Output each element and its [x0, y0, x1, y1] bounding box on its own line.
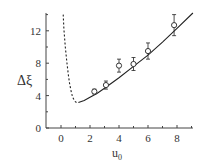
open-circle-marker [103, 82, 108, 87]
y-tick-label: 12 [30, 25, 41, 37]
y-tick-label: 4 [36, 90, 42, 102]
x-tick-label: 4 [116, 132, 122, 144]
plot-series [63, 13, 193, 103]
y-tick-label: 0 [36, 122, 42, 134]
open-circle-marker [145, 48, 150, 53]
open-circle-marker [92, 89, 97, 94]
open-circle-marker [116, 63, 121, 68]
data-point [92, 89, 97, 94]
data-point [131, 58, 136, 71]
x-tick-label: 6 [145, 132, 151, 144]
x-tick-label: 2 [87, 132, 93, 144]
x-tick-label: 0 [58, 132, 64, 144]
x-axis-label-subscript: 0 [118, 153, 122, 162]
y-tick-label: 8 [36, 57, 42, 69]
open-circle-marker [131, 61, 136, 66]
data-point [116, 59, 121, 72]
chart: 04812 02468 Δξ u0 [0, 0, 205, 168]
x-tick-label: 8 [174, 132, 180, 144]
open-circle-marker [172, 23, 177, 28]
dashed-curve [63, 15, 78, 103]
y-axis-label: Δξ [17, 73, 32, 88]
x-axis-label: u0 [112, 146, 122, 162]
